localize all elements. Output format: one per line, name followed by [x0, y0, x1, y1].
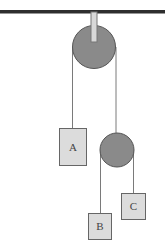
ceiling-bar [0, 10, 165, 14]
block-b-label: B [96, 220, 103, 232]
pulley-diagram: A B C [0, 0, 165, 250]
block-a: A [60, 129, 87, 166]
support-rod [91, 12, 97, 42]
block-c-label: C [130, 200, 137, 212]
block-b: B [89, 214, 112, 240]
block-c: C [122, 194, 146, 220]
block-a-label: A [69, 141, 77, 153]
lower-pulley [100, 133, 134, 167]
